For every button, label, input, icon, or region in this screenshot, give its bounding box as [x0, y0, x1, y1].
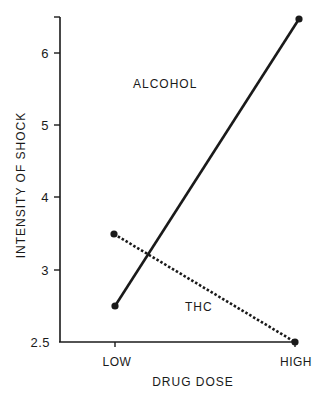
line-chart: 6 5 4 3 2.5 INTENSITY OF SHOCK LOW HIGH …	[0, 0, 329, 399]
y-tick-label-2-5: 2.5	[30, 335, 50, 350]
y-axis	[54, 17, 60, 342]
thc-series-label: THC	[185, 300, 213, 314]
series-alcohol	[111, 15, 302, 309]
y-tick-label-3: 3	[41, 263, 49, 278]
alcohol-low-point	[111, 302, 118, 309]
y-tick-label-5: 5	[41, 118, 49, 133]
y-tick-label-6: 6	[41, 46, 49, 61]
alcohol-series-label: ALCOHOL	[133, 77, 197, 91]
x-tick-label-low: LOW	[103, 355, 132, 369]
x-tick-label-high: HIGH	[280, 355, 312, 369]
thc-high-point	[291, 338, 298, 345]
alcohol-high-point	[295, 15, 302, 22]
x-axis-title: DRUG DOSE	[152, 375, 234, 389]
thc-low-point	[110, 230, 117, 237]
y-tick-label-4: 4	[41, 190, 49, 205]
y-axis-title: INTENSITY OF SHOCK	[14, 112, 28, 258]
x-axis	[59, 342, 297, 347]
series-thc	[110, 230, 298, 345]
